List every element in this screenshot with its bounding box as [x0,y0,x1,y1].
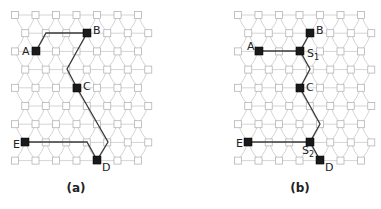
lattice-node [358,84,365,91]
lattice-diagram: ABCDE(a) ABCDES1S2(b) [0,0,381,209]
lattice-node [22,30,29,37]
lattice-node [32,12,39,19]
lattice-node [276,121,283,128]
lattice-node [358,48,365,55]
node-d [316,156,324,164]
lattice-node [53,121,60,128]
lattice-node [337,157,344,164]
lattice-node [135,121,142,128]
lattice-node [337,121,344,128]
label-d: D [102,161,110,174]
caption-b: (b) [290,181,310,195]
lattice-node [327,103,334,110]
label-a: A [22,45,30,58]
lattice-node [114,84,121,91]
lattice-node [73,12,80,19]
label-a: A [247,40,255,53]
lattice-node [73,157,80,164]
node-s1 [296,47,304,55]
lattice-node [135,84,142,91]
lattice-node [276,157,283,164]
lattice-node [22,103,29,110]
subscript: 2 [309,150,314,159]
lattice-node [114,157,121,164]
panel-a: ABCDE(a) [11,12,152,196]
lattice-node [255,157,262,164]
label-e: E [236,137,243,150]
lattice-node [296,12,303,19]
lattice-node [124,30,131,37]
lattice-node [235,48,242,55]
lattice-node [286,66,293,73]
lattice-node [135,12,142,19]
lattice-node [104,103,111,110]
lattice-node [53,48,60,55]
lattice-node [347,30,354,37]
lattice-node [347,139,354,146]
lattice-node [53,84,60,91]
lattice-node [255,121,262,128]
lattice-node [12,12,19,19]
lattice-node [12,121,19,128]
subscript: 1 [314,53,319,62]
lattice-node [368,30,375,37]
lattice-node [73,121,80,128]
lattice-node [245,30,252,37]
label-b: B [316,24,324,37]
lattice-node [114,12,121,19]
lattice-node [235,157,242,164]
lattice-node [276,12,283,19]
lattice-node [327,30,334,37]
node-a [32,47,40,55]
lattice-node [32,84,39,91]
lattice-grid [234,12,375,165]
lattice-node [265,66,272,73]
lattice-node [358,121,365,128]
lattice-node [53,157,60,164]
lattice-node [286,103,293,110]
lattice-node [114,48,121,55]
lattice-node [42,103,49,110]
lattice-node [94,84,101,91]
node-c [296,84,304,92]
lattice-node [135,157,142,164]
lattice-node [32,157,39,164]
lattice-node [94,12,101,19]
lattice-node [265,30,272,37]
lattice-node [245,66,252,73]
lattice-node [114,121,121,128]
node-e [244,138,252,146]
lattice-node [235,12,242,19]
label-d: D [325,161,333,174]
lattice-node [104,66,111,73]
lattice-node [124,139,131,146]
lattice-node [104,30,111,37]
lattice-node [347,66,354,73]
lattice-node [337,12,344,19]
node-b [306,29,314,37]
lattice-node [327,139,334,146]
lattice-node [145,66,152,73]
node-d [93,156,101,164]
panel-b: ABCDES1S2(b) [234,12,375,196]
lattice-node [347,103,354,110]
lattice-node [296,157,303,164]
lattice-node [53,12,60,19]
lattice-node [255,84,262,91]
lattice-grid [11,12,152,165]
lattice-node [12,157,19,164]
lattice-node [296,121,303,128]
caption-a: (a) [66,181,85,195]
lattice-node [286,30,293,37]
node-e [21,138,29,146]
lattice-node [317,12,324,19]
lattice-node [337,84,344,91]
lattice-node [145,30,152,37]
label-c: C [306,81,314,94]
lattice-node [135,48,142,55]
lattice-node [276,84,283,91]
lattice-node [358,157,365,164]
lattice-node [124,66,131,73]
lattice-node [32,121,39,128]
lattice-node [327,66,334,73]
